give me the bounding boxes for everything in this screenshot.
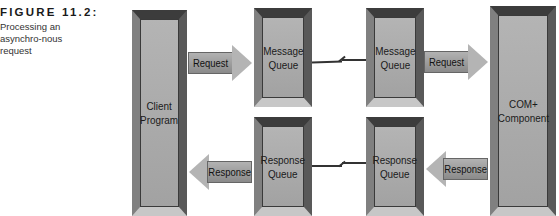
request-arrow-server-label: Request (429, 56, 464, 68)
response-queue-client-box: ResponseQueue (254, 117, 312, 216)
message-queue-client-box: MessageQueue (254, 8, 312, 107)
client-program-box: ClientProgram (132, 10, 187, 216)
response-queue-client-label: ResponseQueue (261, 153, 306, 181)
com-component-label: COM+Component (497, 97, 548, 125)
arrow-right-icon (232, 45, 252, 81)
request-arrow-client-label: Request (193, 57, 228, 69)
request-arrow-server: Request (424, 44, 488, 80)
message-queue-client-label: MessageQueue (263, 44, 303, 72)
response-arrow-client: Response (189, 154, 252, 190)
response-queue-server-box: ResponseQueue (366, 117, 424, 216)
message-queue-server-label: MessageQueue (375, 44, 415, 72)
response-arrow-server-label: Response (444, 163, 487, 175)
message-queue-server-box: MessageQueue (366, 8, 424, 107)
request-arrow-client: Request (188, 45, 252, 81)
response-queue-server-label: ResponseQueue (373, 153, 418, 181)
figure-caption: FIGURE 11.2: Processing an asynchro-nous… (0, 6, 125, 57)
arrow-left-icon (189, 154, 209, 190)
figure-description: Processing an asynchro-nous request (0, 21, 95, 57)
arrow-right-icon (468, 44, 488, 80)
response-arrow-client-label: Response (208, 166, 251, 178)
client-program-label: ClientProgram (141, 99, 179, 127)
com-component-box: COM+Component (490, 6, 556, 216)
figure-label: FIGURE 11.2: (0, 6, 125, 18)
response-arrow-server: Response (426, 151, 488, 187)
